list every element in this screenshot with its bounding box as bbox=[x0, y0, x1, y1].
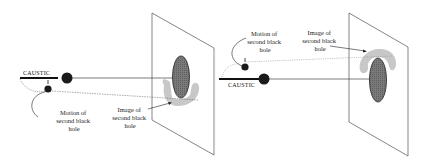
image-callout-arrow bbox=[330, 46, 365, 51]
motion-label: Motion of second black hole bbox=[56, 109, 91, 132]
motion-path bbox=[222, 64, 240, 77]
primary-image bbox=[370, 58, 387, 102]
primary-image bbox=[173, 56, 190, 98]
image-label: Image of second black hole bbox=[302, 29, 337, 52]
image-label: Image of second black hole bbox=[112, 106, 147, 129]
second-black-hole bbox=[44, 85, 51, 92]
first-black-hole bbox=[259, 74, 270, 85]
left-panel: CAUSTIC Motion of second black hole Imag… bbox=[20, 13, 214, 155]
image-callout-arrow bbox=[148, 103, 170, 109]
motion-callout bbox=[32, 92, 45, 117]
caustic-label: CAUSTIC bbox=[228, 82, 255, 88]
right-panel: CAUSTIC Motion of second black hole Imag… bbox=[219, 13, 408, 156]
motion-path bbox=[20, 79, 48, 92]
first-black-hole bbox=[62, 73, 73, 84]
diagram: CAUSTIC Motion of second black hole Imag… bbox=[0, 0, 428, 164]
second-black-hole bbox=[241, 63, 248, 70]
motion-callout bbox=[232, 38, 246, 66]
motion-label: Motion of second black hole bbox=[247, 30, 282, 53]
caustic-label: CAUSTIC bbox=[23, 70, 50, 76]
arrowhead-icon bbox=[363, 50, 367, 53]
